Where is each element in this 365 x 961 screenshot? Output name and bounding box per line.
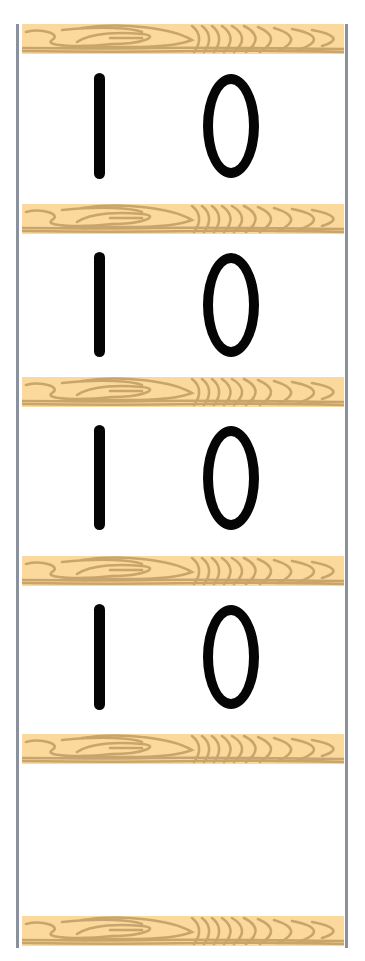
digit-zero [203,253,259,357]
digit-one [94,604,105,710]
wood-shelf [22,556,344,586]
digit-one [94,252,105,357]
wood-shelf [22,24,344,54]
digit-one [94,73,105,179]
empty-slot [22,764,344,916]
digit-zero [203,605,259,709]
digit-one [94,425,105,530]
wood-shelf [22,204,344,234]
right-rail [345,24,348,948]
digit-zero [203,426,259,530]
digit-zero [203,74,259,178]
wood-shelf [22,916,344,946]
wood-shelf [22,377,344,407]
wood-shelf [22,734,344,764]
left-rail [16,24,19,948]
